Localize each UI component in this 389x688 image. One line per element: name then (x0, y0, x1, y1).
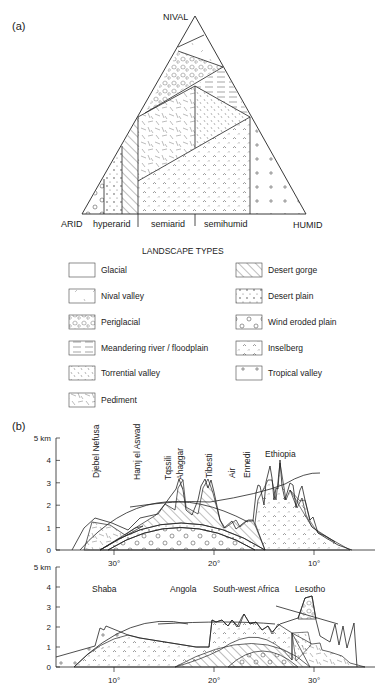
y-tick-label: 4 (47, 456, 52, 465)
swatch-glacial (69, 263, 95, 277)
place-label: Air (227, 467, 237, 478)
y-tick-label: 1 (47, 524, 52, 533)
place-label-ethiopia: Ethiopia (265, 449, 296, 459)
panel-b-label: (b) (12, 420, 25, 432)
region-desert-plain (104, 146, 122, 214)
legend-label: Tropical valley (268, 368, 323, 378)
swatch-nival-valley (69, 289, 95, 303)
swatch-pediment (69, 393, 95, 407)
place-label: Lesotho (295, 584, 326, 594)
y-tick-label: 4 (47, 583, 52, 592)
profile-south: 012345 km 10° 20° 30° Shaba Angola South… (34, 563, 375, 685)
place-label: Shaba (92, 584, 117, 594)
y-tick-label: 5 km (34, 434, 52, 443)
place-label: Angola (170, 584, 197, 594)
place-label: Ennedi (242, 451, 252, 478)
y-tick-label: 1 (47, 643, 52, 652)
legend-label: Meandering river / floodplain (101, 343, 209, 353)
swatch-meandering-river (69, 341, 95, 355)
y-tick-label: 0 (47, 663, 52, 672)
legend-label: Torrential valley (101, 368, 161, 378)
legend-title: LANDSCAPE TYPES (142, 246, 224, 256)
base-label-semiarid: semiarid (151, 219, 185, 229)
x-tick-label: 10° (308, 559, 320, 568)
swatch-torrential-valley (69, 366, 95, 380)
vertex-label-nival: NIVAL (163, 12, 188, 22)
y-tick-label: 3 (47, 603, 52, 612)
legend-label: Pediment (101, 395, 138, 405)
legend-label: Desert gorge (268, 265, 317, 275)
x-tick-label: 20° (208, 676, 220, 685)
legend-label: Inselberg (268, 343, 303, 353)
y-tick-label: 5 km (34, 563, 52, 572)
x-tick-label: 30° (108, 559, 120, 568)
legend-label: Periglacial (101, 317, 140, 327)
base-label-semihumid: semihumid (204, 219, 248, 229)
figure-canvas: (a) NIVAL ARID (0, 0, 389, 688)
profile-north: 012345 km 30° 20° 10° Djebel Nefusa Hamj… (34, 424, 375, 568)
place-label: Djebel Nefusa (91, 424, 101, 478)
x-tick-label: 20° (208, 559, 220, 568)
base-label-hyperarid: hyperarid (93, 219, 131, 229)
y-tick-label: 3 (47, 479, 52, 488)
swatch-desert-gorge (236, 263, 262, 277)
swatch-tropical-valley (236, 366, 262, 380)
x-tick-label: 30° (308, 676, 320, 685)
legend-labels: Glacial Nival valley Periglacial Meander… (101, 265, 337, 405)
legend-label: Desert plain (268, 291, 314, 301)
x-tick-label: 10° (108, 676, 120, 685)
region-desert-gorge (122, 117, 138, 214)
legend-swatches (69, 263, 262, 407)
place-label: Tibesti (204, 453, 214, 478)
legend-label: Wind eroded plain (268, 317, 337, 327)
vertex-label-humid: HUMID (293, 220, 323, 230)
y-tick-label: 2 (47, 501, 52, 510)
legend-label: Nival valley (101, 291, 145, 301)
place-label: South-west Africa (213, 584, 279, 594)
y-tick-label: 2 (47, 623, 52, 632)
swatch-wind-eroded-plain (236, 315, 262, 329)
vertex-label-arid: ARID (61, 219, 83, 229)
place-label: Tqssili (163, 456, 173, 480)
panel-a-label: (a) (12, 20, 25, 32)
place-label: Hamj el Aswad (132, 424, 142, 480)
region-periglacial (298, 596, 316, 619)
y-tick-label: 0 (47, 546, 52, 555)
swatch-periglacial (69, 315, 95, 329)
legend-label: Glacial (101, 265, 127, 275)
ternary-diagram: NIVAL ARID HUMID hyperarid semiarid semi… (61, 12, 323, 230)
swatch-desert-plain (236, 289, 262, 303)
place-label: Ahaggar (175, 448, 185, 480)
swatch-inselberg (236, 341, 262, 355)
